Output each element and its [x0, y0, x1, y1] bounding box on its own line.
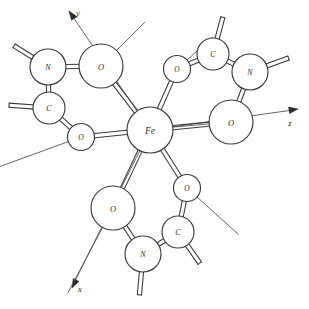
atom-n-upper-right: N [232, 54, 268, 90]
stub-n-bottom [137, 270, 143, 295]
lp-o-bottom-small [197, 197, 239, 234]
atom-n-bottom: N [125, 236, 161, 272]
atom-o-bottom-small-label: O [184, 184, 190, 193]
bond-fe-o-bl-edge-a [120, 148, 139, 189]
atom-o-right-large-label: O [228, 118, 234, 128]
atom-o-upper-left-large: O [79, 44, 123, 88]
bond-c-o-b-edge-b [179, 199, 183, 218]
atom-o-bottom-left-large-label: O [110, 204, 116, 214]
bond-c-o-ul-edge-a [58, 119, 71, 131]
atom-layer: FeONCOOCNOONCO [30, 38, 268, 272]
lp-o-bottom-left [68, 227, 103, 292]
bond-fe-o-bottom-edge-b [163, 147, 183, 178]
axis-x-label: x [77, 284, 82, 294]
atom-o-upper-right-small: O [164, 56, 191, 83]
atom-c-bottom-right-label: C [175, 228, 181, 237]
atom-o-bottom-left-large: O [91, 186, 135, 230]
atom-c-upper-right: C [197, 38, 229, 70]
bond-o-n-bl-edge-b [126, 224, 136, 240]
atom-o-left-small-label: O [78, 133, 84, 142]
bond-fe-o-left-edge-b [93, 134, 130, 138]
lp-o-left-small [0, 142, 68, 168]
stub-c-upper-left-edge-a [9, 103, 35, 105]
bond-c-o-b-edge-a [183, 200, 187, 219]
axis-z-label: z [287, 118, 292, 128]
stub-c-upper-right-cap [221, 17, 225, 18]
bond-fe-o-bl-edge-b [123, 150, 142, 191]
bond-fe-o-ul [111, 81, 138, 115]
bond-fe-o-left [92, 130, 129, 138]
stub-c-upper-right [215, 17, 225, 41]
bond-fe-o-ur [157, 79, 175, 112]
stub-n-bottom-edge-a [137, 270, 139, 295]
bond-fe-o-ul-edge-b [111, 83, 135, 114]
stub-c-upper-left [9, 103, 35, 109]
stub-n-upper-left-cap [13, 44, 15, 48]
atom-o-bottom-small: O [174, 175, 201, 202]
atom-o-right-large: O [209, 100, 253, 144]
bond-fe-o-left-edge-a [92, 130, 129, 134]
atom-o-upper-left-large-label: O [98, 62, 104, 72]
bond-c-o-ul-edge-b [61, 116, 74, 128]
stub-n-bottom-edge-b [142, 270, 144, 295]
atom-c-bottom-right: C [162, 216, 194, 248]
atom-n-upper-left-label: N [44, 63, 51, 72]
atom-fe-center-label: Fe [144, 126, 155, 136]
stub-n-upper-right-edge-b [264, 56, 287, 65]
bond-o-n-bl-edge-a [122, 226, 132, 242]
atom-n-upper-left: N [30, 49, 66, 85]
atom-n-bottom-label: N [139, 250, 146, 259]
atom-n-upper-right-label: N [246, 68, 253, 77]
stub-n-upper-right [264, 56, 289, 68]
bond-fe-o-ul-edge-a [115, 81, 139, 112]
bond-fe-o-bottom-edge-a [160, 149, 180, 180]
stub-c-upper-left-edge-b [9, 107, 35, 109]
stub-n-upper-right-cap [288, 56, 289, 60]
atom-c-upper-left: C [33, 92, 65, 124]
atom-c-upper-left-label: C [46, 104, 52, 113]
atom-o-upper-right-small-label: O [174, 65, 180, 74]
bond-fe-o-bottom [160, 147, 183, 180]
atom-c-upper-right-label: C [210, 50, 216, 59]
axis-y-label: y [75, 8, 80, 18]
molecular-diagram: yzx FeONCOOCNOONCO [0, 0, 309, 309]
atom-o-left-small: O [68, 124, 95, 151]
axis-z-arrowhead [289, 107, 298, 113]
molecule-canvas: yzx FeONCOOCNOONCO [0, 0, 309, 309]
stub-n-upper-right-edge-a [266, 60, 289, 69]
atom-fe-center: Fe [127, 107, 173, 153]
stub-c-bottom-right-cap [198, 262, 201, 264]
